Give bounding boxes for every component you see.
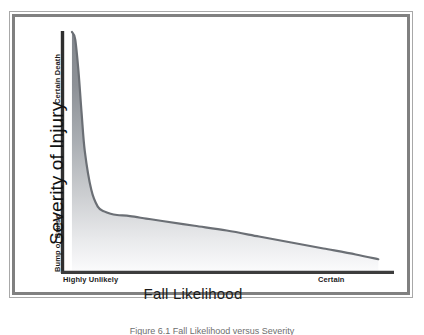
figure-caption: Figure 6.1 Fall Likelihood versus Severi…	[0, 326, 424, 335]
y-tick-label-top: Certain Death	[53, 54, 62, 104]
y-tick-label-bottom: Bump or Bruise	[53, 214, 62, 272]
severity-vs-likelihood-chart	[16, 18, 406, 291]
figure-container: Highly Unlikely Certain Fall Likelihood …	[0, 0, 424, 335]
severity-area-fill	[72, 32, 378, 272]
x-tick-label-left: Highly Unlikely	[63, 275, 118, 284]
x-tick-label-right: Certain	[318, 275, 345, 284]
plot-area	[16, 18, 406, 291]
x-axis-title-text: Fall Likelihood	[144, 285, 243, 302]
x-axis-title: Fall Likelihood	[0, 285, 424, 302]
